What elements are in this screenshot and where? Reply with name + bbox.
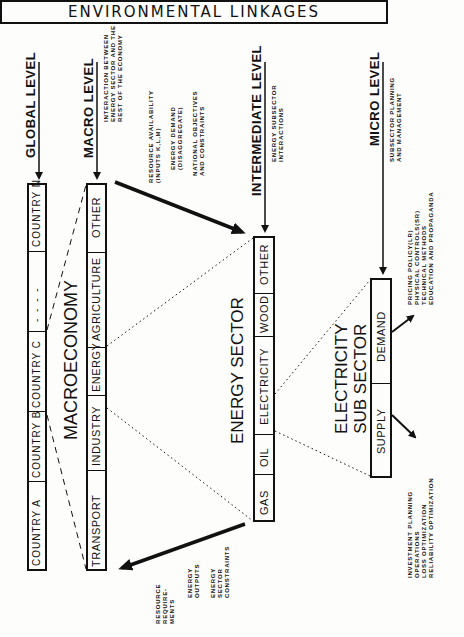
national-objectives-note: NATIONAL OBJECTIVESAND CONSTRAINTS: [192, 91, 206, 176]
macro-energy-cell: ENERGY: [88, 347, 105, 395]
macro-transport-cell: TRANSPORT: [88, 470, 105, 573]
macro-to-energy-arrow: [115, 182, 242, 232]
resource-requirements-note: RESOURCEREQUIRE-MENTS: [155, 584, 176, 624]
macro-agriculture-cell: AGRICULTURE: [88, 252, 105, 347]
macroeconomy-box: TRANSPORT INDUSTRY ENERGY AGRICULTURE OT…: [86, 183, 107, 571]
macro-other-cell: OTHER: [88, 185, 105, 252]
macro-level-label: MACRO LEVEL: [81, 58, 96, 158]
macroeconomy-label: MACROECONOMY: [62, 280, 81, 440]
country-ellipsis-cell: - - - -: [29, 251, 45, 331]
energy-sector-constraints-note: ENERGYSECTORCONSTRAINTS: [210, 546, 231, 598]
energy-sector-box: GAS OIL ELECTRICITY WOOD OTHER: [253, 236, 275, 522]
macro-industry-cell: INDUSTRY: [88, 395, 105, 470]
country-c-cell: COUNTRY C: [29, 331, 45, 411]
energy-sector-label: ENERGY SECTOR: [228, 297, 247, 444]
micro-level-note: SUBSECTOR PLANNINGAND MANAGEMENT: [389, 77, 403, 162]
intermediate-level-note: ENERGY SUBSECTORINTERACTIONS: [271, 85, 285, 162]
micro-level-label: MICRO LEVEL: [367, 52, 382, 146]
resource-availability-note: RESOURCE AVAILABILITY(INPUTS K,L,M): [148, 90, 162, 183]
energy-outputs-note: ENERGYOUTPUTS: [187, 564, 201, 598]
energy-demand-note: ENERGY DEMAND(DISAGGREGATE): [170, 106, 184, 170]
energy-electricity-cell: ELECTRICITY: [255, 336, 273, 434]
electricity-supply-cell: SUPPLY: [372, 383, 390, 480]
energy-gas-cell: GAS: [255, 474, 273, 524]
global-level-label: GLOBAL LEVEL: [23, 52, 38, 158]
country-a-cell: COUNTRY A: [29, 481, 45, 573]
macro-level-note: INTERACTION BETWEENENERGY SECTOR AND THE…: [103, 25, 124, 122]
energy-oil-cell: OIL: [255, 434, 273, 474]
intermediate-level-label: INTERMEDIATE LEVEL: [249, 45, 264, 196]
electricity-subsector-box: SUPPLY DEMAND: [370, 278, 392, 478]
demand-actions-arrow: [392, 316, 413, 332]
electricity-demand-cell: DEMAND: [372, 280, 390, 383]
country-b-cell: COUNTRY B: [29, 411, 45, 481]
country-n-cell: COUNTRY N: [29, 185, 45, 251]
energy-other-cell: OTHER: [255, 238, 273, 293]
energy-wood-cell: WOOD: [255, 293, 273, 336]
supply-actions-arrow: [392, 415, 415, 437]
supply-actions-list: INVESTMENT PLANNING OPERATIONS LOSS OPTI…: [407, 478, 435, 578]
countries-box: COUNTRY A COUNTRY B COUNTRY C - - - - CO…: [27, 183, 47, 571]
electricity-subsector-label: ELECTRICITY SUB SECTOR: [332, 323, 370, 434]
demand-actions-list: PRICING POLICY(LR) PHYSICAL CONTROLS(SR)…: [407, 192, 435, 305]
